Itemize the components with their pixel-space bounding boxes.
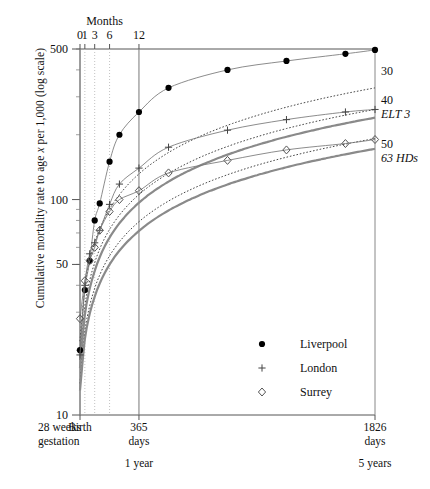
figure-root: Cumulative mortality rate to age x per 1… [0, 0, 430, 489]
y-axis-title-post: per 1,000 (log scale) [34, 48, 46, 148]
y-tick-label-10: 10 [56, 408, 68, 422]
marker-liverpool [372, 47, 378, 53]
legend-marker-surrey [258, 388, 265, 396]
marker-liverpool [342, 51, 348, 57]
y-tick-label-500: 500 [50, 42, 68, 56]
reference-curve-63-hds [80, 149, 375, 391]
chart-canvas: 5001005010013612Months28 weeksgestationB… [0, 0, 430, 489]
bottom-label-2-line2: days [128, 435, 150, 448]
legend-label-surrey: Surrey [300, 385, 332, 399]
top-tick-label-3: 3 [92, 28, 98, 42]
marker-liverpool [224, 67, 230, 73]
legend-label-london: London [300, 361, 337, 375]
curve-label-63-hds: 63 HDs [381, 151, 418, 165]
marker-liverpool [106, 159, 112, 165]
bottom-label-3-line3: 5 years [359, 457, 392, 470]
series-line-surrey [80, 140, 375, 319]
curve-label-elt-3: ELT 3 [380, 107, 410, 121]
marker-liverpool [116, 132, 122, 138]
bottom-label-3-line2: days [364, 435, 386, 448]
curve-label-30: 30 [381, 64, 393, 78]
marker-liverpool [136, 109, 142, 115]
y-axis-title-pre: Cumulative mortality rate to age [34, 153, 46, 309]
marker-liverpool [165, 85, 171, 91]
marker-liverpool [92, 217, 98, 223]
curve-label-50: 50 [381, 137, 393, 151]
y-tick-label-50: 50 [56, 257, 68, 271]
top-tick-label-12: 12 [133, 28, 145, 42]
marker-liverpool [97, 200, 103, 206]
bottom-label-0-line2: gestation [38, 435, 80, 448]
y-tick-label-100: 100 [50, 193, 68, 207]
bottom-label-2-line1: 365 [130, 421, 148, 433]
top-axis-title: Months [86, 14, 123, 28]
bottom-label-1-line1: Birth [68, 421, 92, 433]
top-tick-label-6: 6 [107, 28, 113, 42]
legend-label-liverpool: Liverpool [300, 337, 348, 351]
bottom-label-3-line1: 1826 [364, 421, 387, 433]
reference-curve-elt-3 [80, 118, 375, 368]
curve-label-40: 40 [381, 93, 393, 107]
y-axis-title: Cumulative mortality rate to age x per 1… [34, 0, 46, 378]
legend-marker-liverpool [259, 341, 265, 347]
y-axis-title-var: x [34, 147, 46, 152]
marker-liverpool [283, 58, 289, 64]
top-tick-label-1: 1 [82, 28, 88, 42]
series-line-liverpool [80, 50, 375, 350]
bottom-label-2-line3: 1 year [125, 457, 154, 470]
